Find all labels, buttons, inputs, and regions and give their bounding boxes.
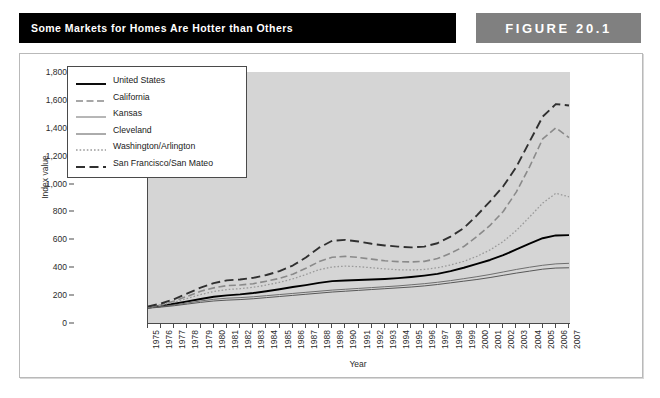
x-tick-mark bbox=[147, 324, 148, 328]
y-axis-title: Index value bbox=[40, 132, 50, 222]
x-tick-mark bbox=[568, 324, 569, 328]
x-tick-mark bbox=[186, 324, 187, 328]
x-tick-label: 2006 bbox=[559, 330, 569, 349]
x-tick-label: 1999 bbox=[467, 330, 477, 349]
x-tick-label: 1981 bbox=[230, 330, 240, 349]
x-tick-mark bbox=[160, 324, 161, 328]
figure-title-bar: Some Markets for Homes Are Hotter than O… bbox=[19, 13, 456, 43]
x-tick-mark bbox=[226, 324, 227, 328]
legend-item: California bbox=[75, 89, 239, 106]
x-tick-label: 2001 bbox=[493, 330, 503, 349]
x-tick-label: 2005 bbox=[546, 330, 556, 349]
x-tick-mark bbox=[213, 324, 214, 328]
y-tick-label: 1,800 bbox=[46, 67, 67, 77]
y-tick-label: 1,400 bbox=[46, 123, 67, 133]
chart-legend: United StatesCaliforniaKansasClevelandWa… bbox=[67, 66, 247, 178]
figure-frame: Index value 02004006008001,0001,2001,400… bbox=[19, 53, 643, 378]
y-tick-label: 1,000 bbox=[46, 179, 67, 189]
y-tick-label: 600 bbox=[53, 234, 67, 244]
x-tick-mark bbox=[265, 324, 266, 328]
x-tick-label: 1994 bbox=[401, 330, 411, 349]
x-tick-label: 1992 bbox=[375, 330, 385, 349]
y-tick-label: 1,200 bbox=[46, 151, 67, 161]
x-tick-label: 1975 bbox=[151, 330, 161, 349]
figure-number-badge: FIGURE 20.1 bbox=[476, 13, 641, 43]
x-tick-mark bbox=[463, 324, 464, 328]
legend-swatch bbox=[75, 158, 107, 168]
legend-swatch bbox=[75, 141, 107, 151]
y-tick-label: 200 bbox=[53, 290, 67, 300]
x-tick-label: 1976 bbox=[164, 330, 174, 349]
x-tick-mark bbox=[555, 324, 556, 328]
legend-item: San Francisco/San Mateo bbox=[75, 155, 239, 172]
y-tick-mark bbox=[69, 267, 74, 268]
y-tick-label: 400 bbox=[53, 262, 67, 272]
x-tick-mark bbox=[305, 324, 306, 328]
y-tick-mark bbox=[69, 183, 74, 184]
x-axis-title: Year bbox=[147, 359, 569, 369]
x-tick-label: 1978 bbox=[190, 330, 200, 349]
x-tick-label: 1979 bbox=[204, 330, 214, 349]
x-tick-mark bbox=[279, 324, 280, 328]
x-tick-mark bbox=[252, 324, 253, 328]
x-tick-label: 1990 bbox=[348, 330, 358, 349]
x-tick-mark bbox=[529, 324, 530, 328]
x-tick-mark bbox=[344, 324, 345, 328]
x-tick-mark bbox=[292, 324, 293, 328]
x-tick-label: 1983 bbox=[256, 330, 266, 349]
x-tick-label: 1977 bbox=[177, 330, 187, 349]
legend-label: California bbox=[113, 92, 150, 102]
y-tick-label: 800 bbox=[53, 206, 67, 216]
y-tick-mark bbox=[69, 211, 74, 212]
legend-swatch bbox=[75, 75, 107, 85]
legend-item: Kansas bbox=[75, 105, 239, 122]
y-tick-mark bbox=[69, 239, 74, 240]
x-tick-label: 2007 bbox=[572, 330, 582, 349]
y-tick-mark bbox=[69, 295, 74, 296]
legend-item: United States bbox=[75, 72, 239, 89]
x-tick-mark bbox=[410, 324, 411, 328]
x-tick-label: 1996 bbox=[427, 330, 437, 349]
x-tick-label: 1997 bbox=[440, 330, 450, 349]
legend-label: Cleveland bbox=[113, 125, 152, 135]
x-tick-mark bbox=[239, 324, 240, 328]
x-tick-mark bbox=[542, 324, 543, 328]
x-tick-label: 1980 bbox=[217, 330, 227, 349]
x-tick-label: 2003 bbox=[519, 330, 529, 349]
figure-number-label: FIGURE 20.1 bbox=[505, 21, 612, 36]
x-tick-mark bbox=[450, 324, 451, 328]
legend-item: Cleveland bbox=[75, 122, 239, 139]
x-tick-label: 1985 bbox=[283, 330, 293, 349]
line-chart: Index value 02004006008001,0001,2001,400… bbox=[20, 54, 642, 377]
x-tick-label: 2000 bbox=[480, 330, 490, 349]
x-tick-mark bbox=[384, 324, 385, 328]
legend-item: Washington/Arlington bbox=[75, 138, 239, 155]
x-tick-mark bbox=[476, 324, 477, 328]
x-tick-mark bbox=[331, 324, 332, 328]
x-tick-mark bbox=[200, 324, 201, 328]
x-tick-label: 1991 bbox=[362, 330, 372, 349]
x-tick-label: 1989 bbox=[335, 330, 345, 349]
x-tick-mark bbox=[173, 324, 174, 328]
figure-header: Some Markets for Homes Are Hotter than O… bbox=[19, 13, 641, 43]
x-tick-label: 1995 bbox=[414, 330, 424, 349]
y-tick-mark bbox=[69, 323, 74, 324]
x-tick-mark bbox=[423, 324, 424, 328]
legend-swatch bbox=[75, 125, 107, 135]
legend-label: United States bbox=[113, 75, 165, 85]
legend-label: Kansas bbox=[113, 108, 142, 118]
legend-label: San Francisco/San Mateo bbox=[113, 158, 213, 168]
legend-label: Washington/Arlington bbox=[113, 141, 195, 151]
x-tick-mark bbox=[358, 324, 359, 328]
x-tick-mark bbox=[371, 324, 372, 328]
x-tick-mark bbox=[436, 324, 437, 328]
x-tick-label: 1987 bbox=[309, 330, 319, 349]
y-tick-label: 0 bbox=[62, 318, 67, 328]
x-tick-label: 1982 bbox=[243, 330, 253, 349]
x-tick-mark bbox=[397, 324, 398, 328]
page-title: Some Markets for Homes Are Hotter than O… bbox=[19, 22, 293, 34]
x-tick-label: 1984 bbox=[269, 330, 279, 349]
figure-root: Some Markets for Homes Are Hotter than O… bbox=[0, 0, 660, 398]
x-tick-label: 1998 bbox=[454, 330, 464, 349]
x-tick-label: 2002 bbox=[506, 330, 516, 349]
